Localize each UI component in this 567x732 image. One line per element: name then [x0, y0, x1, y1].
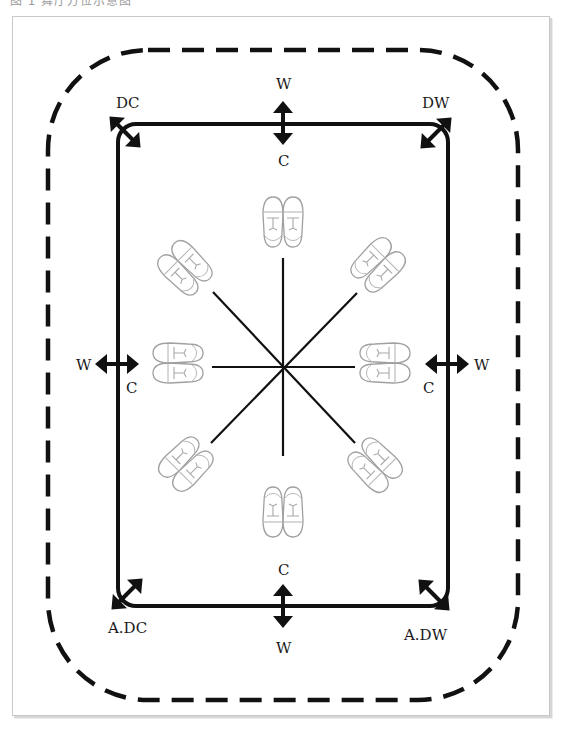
label-right-center: C — [423, 379, 434, 397]
label-top-wall: W — [276, 75, 292, 93]
shoes-bottom-right — [343, 433, 407, 497]
label-left-wall: W — [76, 356, 92, 374]
arrow-top-left — [102, 109, 147, 154]
shoes-top-right — [346, 233, 410, 297]
ballroom-diagram: W C C W W C W C DC DW A.DC A.DW — [0, 0, 567, 732]
label-against-diagonal-centre: A.DC — [107, 619, 147, 637]
label-left-center: C — [126, 379, 137, 397]
shoes-right — [360, 343, 410, 383]
shoes-bottom — [263, 487, 303, 537]
label-diagonal-wall: DW — [422, 94, 450, 112]
label-top-center: C — [278, 152, 289, 170]
arrow-top-right — [413, 110, 458, 155]
shoes-top — [263, 197, 303, 247]
label-against-diagonal-wall: A.DW — [403, 626, 448, 644]
label-bottom-wall: W — [276, 639, 292, 657]
label-bottom-center: C — [278, 561, 289, 579]
shoes-left — [153, 343, 203, 383]
shoes-bottom-left — [154, 432, 218, 496]
arrow-bottom-left — [104, 571, 149, 616]
label-right-wall: W — [474, 356, 490, 374]
label-diagonal-centre: DC — [116, 94, 140, 112]
center-spokes — [211, 258, 357, 456]
shoes-top-left — [153, 236, 217, 300]
